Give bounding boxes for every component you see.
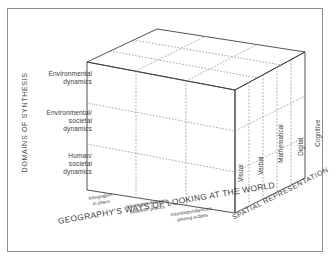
y-tick-1-line3: dynamics — [30, 125, 92, 133]
cube-top-face — [87, 29, 305, 90]
axis-title-vertical: DOMAINS OF SYNTHESIS — [21, 57, 30, 187]
y-tick-2-line3: dynamics — [30, 168, 92, 176]
y-tick-label-human-societal-dynamics: Human/ societal dynamics — [30, 152, 92, 176]
front-face-gridlines — [87, 71, 235, 206]
y-tick-label-environmental-societal-dynamics: Environmental/ societal dynamics — [30, 109, 92, 133]
z-tick-label-mathematical: Mathematical — [277, 103, 285, 163]
z-tick-label-visual: Visual — [237, 122, 245, 182]
y-tick-0-line2: dynamics — [30, 78, 92, 86]
z-tick-label-cognitive: Cognitive — [314, 87, 322, 147]
figure-canvas: DOMAINS OF SYNTHESIS Environmental dynam… — [0, 0, 334, 274]
y-tick-1-line1: Environmental/ — [30, 109, 92, 117]
top-face-gridlines — [110, 36, 281, 81]
y-tick-label-environmental-dynamics: Environmental dynamics — [30, 70, 92, 86]
y-tick-0-line1: Environmental — [30, 70, 92, 78]
y-tick-2-line1: Human/ — [30, 152, 92, 160]
z-tick-label-verbal: Verbal — [257, 115, 265, 175]
y-tick-1-line2: societal — [30, 117, 92, 125]
z-tick-label-digital: Digital — [297, 96, 305, 156]
y-tick-2-line2: societal — [30, 160, 92, 168]
